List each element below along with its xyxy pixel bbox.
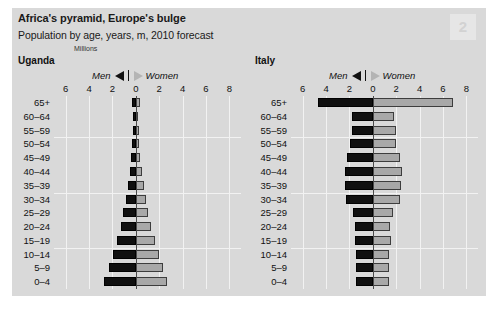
pyramid-row: 40–44 (291, 165, 478, 179)
pyramid-row: 35–39 (54, 179, 241, 193)
age-group-label: 40–44 (261, 165, 287, 179)
bar-men (345, 181, 373, 190)
x-tick-label: 6 (63, 83, 68, 94)
pyramid-row: 30–34 (291, 193, 478, 207)
bar-women (373, 112, 395, 121)
triangle-right-icon (134, 71, 143, 81)
x-tick-label: 6 (203, 83, 208, 94)
age-group-label: 60–64 (24, 110, 50, 124)
bar-women (373, 181, 402, 190)
legend-divider (365, 70, 366, 81)
age-group-label: 15–19 (261, 234, 287, 248)
pyramid-row: 65+ (291, 96, 478, 110)
age-group-label: 10–14 (24, 248, 50, 262)
chart-uganda: Uganda Men Women 64202468 65+60–6455–595… (18, 55, 243, 291)
bar-men (346, 195, 373, 204)
pyramid-row: 20–24 (54, 220, 241, 234)
pyramid-row: 10–14 (54, 248, 241, 262)
bar-women (373, 236, 391, 245)
age-group-label: 25–29 (24, 206, 50, 220)
bar-women (136, 195, 146, 204)
pyramid-row: 0–4 (291, 275, 478, 289)
bar-women (373, 195, 400, 204)
bar-women (136, 263, 163, 272)
units-label: Millions (74, 45, 97, 52)
pyramid-row: 60–64 (54, 110, 241, 124)
age-group-label: 35–39 (261, 179, 287, 193)
pyramid-row: 15–19 (291, 234, 478, 248)
bar-women (373, 263, 389, 272)
bar-men (113, 250, 136, 259)
bar-women (373, 126, 396, 135)
pyramid-row: 15–19 (54, 234, 241, 248)
chart-title-uganda: Uganda (18, 55, 55, 66)
pyramid-row: 45–49 (54, 151, 241, 165)
bar-men (356, 250, 373, 259)
age-group-label: 20–24 (261, 220, 287, 234)
x-tick-label: 4 (86, 83, 91, 94)
page-subtitle: Population by age, years, m, 2010 foreca… (18, 29, 213, 41)
pyramid-row: 50–54 (291, 137, 478, 151)
age-group-label: 25–29 (261, 206, 287, 220)
chart-italy: Italy Men Women 64202468 65+60–6455–5950… (255, 55, 480, 291)
age-group-label: 10–14 (261, 248, 287, 262)
age-group-label: 30–34 (261, 193, 287, 207)
age-group-label: 50–54 (261, 137, 287, 151)
x-tick-label: 4 (417, 83, 422, 94)
age-group-label: 5–9 (34, 261, 50, 275)
bar-women (136, 222, 151, 231)
bar-men (126, 195, 136, 204)
age-group-label: 65+ (271, 96, 287, 110)
bar-women (373, 250, 389, 259)
bar-women (373, 98, 454, 107)
legend-women-label: Women (145, 71, 178, 81)
bar-women (373, 139, 396, 148)
bar-men (356, 277, 373, 286)
bar-men (352, 126, 373, 135)
bar-women (136, 250, 159, 259)
bar-men (318, 98, 373, 107)
pyramid-row: 25–29 (291, 206, 478, 220)
legend-divider (128, 70, 129, 81)
pyramid-row: 45–49 (291, 151, 478, 165)
age-group-label: 0–4 (34, 275, 50, 289)
bar-men (355, 236, 373, 245)
axis-zero-line (136, 96, 137, 289)
triangle-left-icon (115, 71, 124, 81)
bar-men (345, 167, 373, 176)
plot-area-uganda: 65+60–6455–5950–5445–4940–4435–3930–3425… (54, 96, 241, 289)
age-group-label: 5–9 (271, 261, 287, 275)
bar-women (373, 208, 393, 217)
bar-men (355, 222, 373, 231)
legend-italy: Men Women (329, 70, 415, 81)
pyramid-row: 55–59 (54, 124, 241, 138)
pyramid-row: 0–4 (54, 275, 241, 289)
x-tick-label: 2 (394, 83, 399, 94)
legend-men-label: Men (92, 71, 110, 81)
triangle-left-icon (352, 71, 361, 81)
age-group-label: 65+ (34, 96, 50, 110)
bar-women (373, 153, 400, 162)
pyramid-row: 40–44 (54, 165, 241, 179)
bar-women (136, 208, 149, 217)
pyramid-row: 65+ (54, 96, 241, 110)
bar-women (373, 222, 391, 231)
pyramid-row: 60–64 (291, 110, 478, 124)
triangle-right-icon (371, 71, 380, 81)
pyramid-row: 5–9 (54, 261, 241, 275)
axis-zero-line (373, 96, 374, 289)
x-tick-label: 6 (300, 83, 305, 94)
pyramid-row: 50–54 (54, 137, 241, 151)
pyramid-row: 55–59 (291, 124, 478, 138)
age-group-label: 60–64 (261, 110, 287, 124)
x-tick-label: 8 (464, 83, 469, 94)
age-group-label: 30–34 (24, 193, 50, 207)
bar-men (352, 112, 372, 121)
page-title: Africa's pyramid, Europe's bulge (18, 12, 186, 24)
bar-women (373, 167, 402, 176)
age-group-label: 0–4 (271, 275, 287, 289)
age-group-label: 50–54 (24, 137, 50, 151)
x-tick-label: 6 (440, 83, 445, 94)
age-group-label: 40–44 (24, 165, 50, 179)
chart-title-italy: Italy (255, 55, 275, 66)
